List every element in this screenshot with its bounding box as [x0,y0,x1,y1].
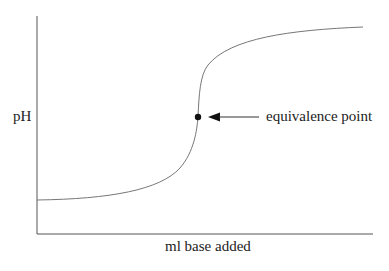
equivalence-point-marker [195,114,201,120]
annotation-label: equivalence point [266,108,372,125]
x-axis-label: ml base added [165,238,251,255]
y-axis-label: pH [13,108,31,125]
titration-chart [0,0,389,271]
arrow-head-icon [208,113,220,122]
